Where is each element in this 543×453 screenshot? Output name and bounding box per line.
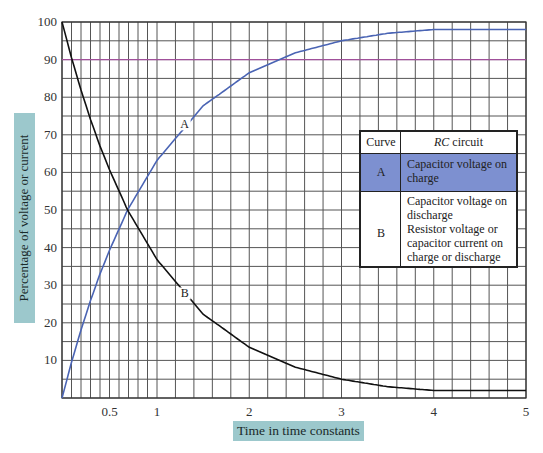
y-tick-label: 40 — [44, 240, 57, 255]
y-tick-label: 80 — [44, 89, 57, 104]
legend-row-b-desc-1: Capacitor voltage on discharge — [407, 194, 517, 222]
legend-header-circuit: circuit — [449, 135, 483, 149]
legend-header-curve: Curve — [361, 135, 401, 150]
y-tick-label: 20 — [44, 315, 57, 330]
y-tick-label: 10 — [44, 352, 57, 367]
curve-label-a: A — [180, 117, 189, 131]
x-tick-label: 3 — [338, 404, 345, 419]
y-axis-label: Percentage of voltage or current — [16, 135, 32, 302]
x-tick-label: 5 — [523, 404, 530, 419]
x-tick-label: 2 — [246, 404, 253, 419]
legend-column-divider — [361, 132, 401, 266]
curve-labels: AB — [179, 117, 191, 300]
legend-row-a-id: A — [361, 165, 401, 180]
legend-row-b-desc-2: Resistor voltage or capacitor current on… — [407, 222, 517, 264]
curve-label-b: B — [181, 286, 189, 300]
x-tick-label: 4 — [431, 404, 438, 419]
legend-table: Curve RC circuit A Capacitor voltage on … — [359, 130, 518, 268]
y-tick-label: 60 — [44, 164, 57, 179]
x-axis-ticks: 0.512345 — [101, 404, 529, 419]
y-tick-label: 70 — [44, 127, 57, 142]
x-tick-label: 1 — [154, 404, 161, 419]
y-tick-label: 90 — [44, 52, 57, 67]
legend-row-a-desc: Capacitor voltage on charge — [407, 157, 517, 185]
legend-row-b-id: B — [361, 226, 401, 241]
x-tick-label: 0.5 — [101, 404, 117, 419]
y-tick-label: 30 — [44, 277, 57, 292]
y-axis-ticks: 102030405060708090100 — [38, 14, 58, 367]
y-tick-label: 50 — [44, 202, 57, 217]
legend-header-rc: RC — [434, 135, 449, 149]
x-axis-label: Time in time constants — [233, 421, 364, 441]
legend-header-rc-circuit: RC circuit — [401, 135, 516, 150]
y-tick-label: 100 — [38, 14, 58, 29]
